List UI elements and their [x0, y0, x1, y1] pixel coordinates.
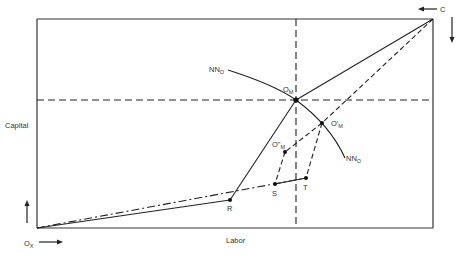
- origin-ox-label: OX: [24, 239, 34, 249]
- arrow-left-head-icon: [418, 7, 424, 12]
- dashed-om-double-s: [275, 152, 285, 184]
- nn-top-label: NNO: [209, 65, 225, 75]
- om-prime-label: O'M: [331, 119, 343, 129]
- dash-dot-line: [37, 178, 306, 228]
- origin-c-label: C: [440, 5, 446, 14]
- line-s-t: [275, 178, 306, 184]
- labor-axis-label: Labor: [226, 236, 246, 245]
- nn-bottom-label: NNO: [346, 154, 362, 164]
- edgeworth-box-diagram: C OX Capital Labor NNO NNO OM O'M O"M R …: [0, 0, 458, 259]
- point-t-label: T: [303, 183, 308, 192]
- om-double-prime-label: O"M: [272, 140, 286, 150]
- om-label: OM: [283, 85, 294, 95]
- arrow-down-head-icon: [450, 37, 455, 43]
- point-om-double-prime: [283, 150, 287, 154]
- dashed-c-om-prime: [322, 19, 433, 123]
- dashed-om-prime-t: [306, 123, 322, 178]
- point-r-label: R: [227, 204, 233, 213]
- point-om: [293, 97, 298, 102]
- point-s: [273, 182, 277, 186]
- arrow-up-head-icon: [25, 200, 30, 206]
- capital-axis-label: Capital: [5, 121, 29, 130]
- point-om-prime: [320, 121, 324, 125]
- dashed-om-prime-om-double: [285, 123, 322, 152]
- line-ox-r: [37, 200, 230, 228]
- point-t: [304, 176, 308, 180]
- arrow-right-head-icon: [57, 240, 63, 245]
- point-s-label: S: [272, 189, 277, 198]
- line-om-r: [230, 100, 296, 200]
- point-r: [228, 198, 232, 202]
- line-c-om: [296, 19, 433, 100]
